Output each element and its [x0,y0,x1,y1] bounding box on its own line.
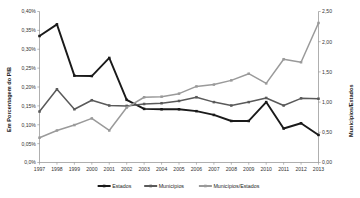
data-point-marker [265,82,268,85]
data-point-marker [91,75,94,78]
x-tick-label: 2001 [104,166,115,172]
data-point-marker [265,97,268,100]
legend-label: Estados [112,183,131,189]
left-tick-label: 0,0% [24,159,36,165]
data-point-marker [56,129,59,132]
data-point-marker [178,92,181,95]
data-point-marker [230,120,233,123]
data-point-marker [160,95,163,98]
data-point-marker [300,122,303,125]
left-tick-label: 0,15% [21,103,36,109]
data-point-marker [73,124,76,127]
series-group [38,22,320,139]
data-point-marker [125,99,128,102]
x-tick-label: 2013 [313,166,324,172]
x-tick-label: 1999 [69,166,80,172]
left-tick-label: 0,30% [21,46,36,52]
data-point-marker [91,99,94,102]
legend-item: Estados [98,183,132,189]
data-point-marker [300,61,303,64]
data-point-marker [213,114,216,117]
legend-marker-icon [204,185,207,188]
data-point-marker [108,57,111,60]
data-point-marker [38,110,41,113]
data-point-marker [143,103,146,106]
data-point-marker [73,108,76,111]
x-tick-label: 2000 [86,166,97,172]
x-tick-label: 1998 [51,166,62,172]
data-point-marker [143,108,146,111]
data-point-marker [282,58,285,61]
data-point-marker [160,108,163,111]
chart-container: Em Porcentagem do PIB Municípios/Estados… [0,0,360,198]
series-line [40,24,319,135]
left-axis-tick-labels: 0,0%0,05%0,10%0,15%0,20%0,25%0,30%0,35%0… [21,8,36,165]
data-point-marker [178,100,181,103]
series-1 [38,23,320,136]
series-line [40,23,319,138]
legend-item: Municípios/Estados [199,183,260,189]
data-point-marker [300,97,303,100]
x-tick-label: 2008 [226,166,237,172]
right-tick-label: 2,50 [322,8,332,14]
data-point-marker [248,72,251,75]
data-point-marker [178,108,181,111]
legend-item: Municípios [144,183,184,189]
right-tick-label: 0,00 [322,159,332,165]
right-tick-label: 1,50 [322,69,332,75]
legend-label: Municípios [159,183,185,189]
data-point-marker [213,83,216,86]
right-tick-label: 0,50 [322,129,332,135]
axis-lines [40,12,319,163]
data-point-marker [108,129,111,132]
legend-marker-icon [103,185,106,188]
data-point-marker [317,134,320,137]
x-tick-label: 2003 [138,166,149,172]
data-point-marker [230,104,233,107]
left-tick-label: 0,20% [21,84,36,90]
data-point-marker [282,104,285,107]
data-point-marker [38,136,41,139]
x-tick-label: 2011 [278,166,289,172]
x-tick-label: 2006 [191,166,202,172]
data-point-marker [213,101,216,104]
x-tick-label: 2004 [156,166,167,172]
x-tick-label: 2007 [208,166,219,172]
left-tick-label: 0,40% [21,8,36,14]
right-axis-title: Municípios/Estados [348,84,354,137]
right-tick-label: 1,00 [322,99,332,105]
x-tick-label: 2012 [295,166,306,172]
legend-marker-icon [149,185,152,188]
data-point-marker [230,79,233,82]
data-point-marker [317,97,320,100]
left-tick-label: 0,10% [21,122,36,128]
left-tick-label: 0,05% [21,141,36,147]
data-point-marker [56,23,59,26]
data-point-marker [248,120,251,123]
x-tick-label: 2010 [261,166,272,172]
data-point-marker [317,22,320,25]
x-tick-label: 1997 [34,166,45,172]
data-point-marker [56,88,59,91]
chart-legend: EstadosMunicípiosMunicípios/Estados [98,183,260,189]
data-point-marker [248,101,251,104]
data-point-marker [282,127,285,130]
left-tick-label: 0,25% [21,65,36,71]
data-point-marker [108,104,111,107]
x-tick-label: 2005 [173,166,184,172]
x-tick-label: 2002 [121,166,132,172]
right-axis-tick-labels: 0,000,501,001,502,002,50 [322,8,332,165]
data-point-marker [195,85,198,88]
right-tick-label: 2,00 [322,39,332,45]
left-axis-title: Em Porcentagem do PIB [6,67,12,132]
x-axis-tick-labels: 1997199819992000200120022003200420052006… [34,166,324,172]
left-tick-label: 0,35% [21,27,36,33]
data-point-marker [195,96,198,99]
data-point-marker [143,96,146,99]
axis-tick-marks [37,12,320,165]
data-point-marker [195,110,198,113]
data-point-marker [125,106,128,109]
legend-label: Municípios/Estados [213,183,259,189]
x-tick-label: 2009 [243,166,254,172]
line-chart: Em Porcentagem do PIB Municípios/Estados… [0,0,360,198]
